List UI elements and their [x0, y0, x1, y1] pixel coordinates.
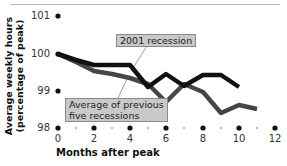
y-tick-100: 100: [30, 48, 50, 59]
x-tick-8: 8: [193, 133, 213, 144]
x-tick-2: 2: [84, 133, 104, 144]
annotation-average-previous: Average of previous five recessions: [65, 98, 168, 122]
y-tick-101: 101: [30, 10, 50, 21]
y-axis-title-line2: (percentage of peak): [14, 9, 25, 143]
x-tick-6: 6: [156, 133, 176, 144]
y-axis-dots: [55, 13, 60, 130]
x-tick-12: 12: [265, 133, 285, 144]
y-axis-title-line1: Average weekly hours: [3, 9, 14, 143]
annotation-average-line1: Average of previous: [69, 99, 164, 110]
annotation-average-line2: five recessions: [69, 110, 164, 121]
annotation-leader-average: [118, 77, 128, 98]
x-tick-10: 10: [229, 133, 249, 144]
x-axis-dots: [75, 125, 278, 130]
annotation-2001-recession: 2001 recession: [116, 34, 196, 47]
x-tick-4: 4: [120, 133, 140, 144]
y-axis-title: Average weekly hours (percentage of peak…: [3, 9, 27, 143]
y-tick-98: 98: [30, 122, 50, 133]
x-tick-0: 0: [48, 133, 68, 144]
annotation-leader-2001: [133, 46, 147, 68]
y-tick-99: 99: [30, 85, 50, 96]
x-axis-title: Months after peak: [56, 147, 160, 158]
